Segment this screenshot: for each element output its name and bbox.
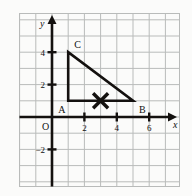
y-tick-label: 2	[41, 80, 46, 90]
coordinate-plane-svg: 24642−2 ABC x y O	[0, 0, 192, 196]
origin-label: O	[42, 121, 49, 132]
x-tick-label: 2	[82, 123, 87, 133]
y-axis-label: y	[39, 18, 45, 29]
x-tick-label: 6	[147, 123, 152, 133]
x-axis-label: x	[172, 119, 178, 130]
coordinate-grid-figure: 24642−2 ABC x y O	[0, 0, 192, 196]
vertex-label-c: C	[74, 39, 81, 50]
vertex-label-a: A	[58, 104, 66, 115]
vertex-label-b: B	[139, 104, 146, 115]
y-tick-label: −2	[35, 145, 45, 155]
y-tick-label: 4	[41, 48, 46, 58]
x-tick-label: 4	[115, 123, 120, 133]
